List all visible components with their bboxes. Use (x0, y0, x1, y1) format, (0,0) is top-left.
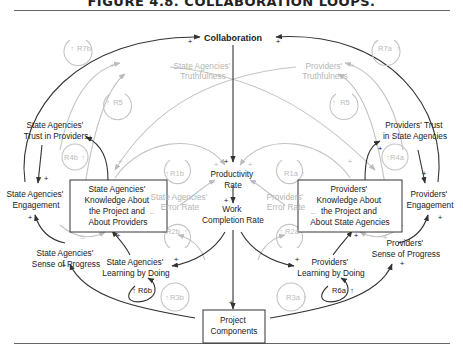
link-pr-learning-to-pr-knowledge (333, 231, 352, 255)
loop-label-r1b: R1b (170, 169, 184, 178)
loop-label-r3b: R3b (170, 293, 184, 302)
loop-label-r2a: R2a (285, 227, 300, 236)
sign-plus: + (224, 196, 229, 205)
sign-plus: + (62, 261, 67, 270)
sign-plus: + (248, 160, 253, 169)
sign-plus: + (378, 144, 383, 153)
link-sa-engagement-to-collaboration (24, 37, 200, 182)
sign-plus: + (118, 157, 123, 166)
sign-minus: – (251, 177, 256, 186)
sign-plus: + (400, 259, 405, 268)
loop-arrow-icon: ↑ (132, 286, 136, 295)
loop-label-r4b: R4b (64, 153, 78, 162)
loop-arrow-icon: ↑ (303, 293, 307, 302)
loop-arrow-icon: ↑ (81, 153, 85, 162)
sign-minus: – (81, 233, 86, 242)
node-sa-engagement: State Agencies' Engagement (6, 189, 65, 210)
sign-plus: + (438, 213, 443, 222)
sign-minus: – (211, 177, 216, 186)
sign-plus: + (44, 174, 49, 183)
sign-plus: + (354, 231, 359, 240)
link-sa-knowledge-to-sa-truth (85, 74, 125, 185)
link-sa-trust-to-sa-engagement (38, 145, 42, 183)
causal-loop-diagram: Collaboration State Agencies' Truthfulne… (0, 0, 463, 357)
loop-arrow-icon: ↑ (301, 169, 305, 178)
loop-label-r7a: R7a (378, 44, 393, 53)
node-sa-truthfulness: State Agencies' Truthfulness (173, 61, 232, 81)
loop-arrow-icon: ↑ (332, 98, 336, 107)
sign-plus: + (348, 157, 353, 166)
node-productivity-rate: Productivity Rate (210, 169, 255, 190)
sign-plus: + (88, 133, 93, 142)
loop-arrow-icon: ↑ (386, 153, 390, 162)
loop-arrow-icon: ↑ (70, 44, 74, 53)
sign-plus: + (340, 72, 345, 81)
loop-label-r4a: R4a (390, 153, 405, 162)
node-sa-trust: State Agencies' Trust in Providers (24, 120, 89, 141)
link-pr-knowledge-to-pr-truth (338, 74, 385, 185)
node-work-completion-rate: Work Completion Rate (202, 204, 264, 225)
link-work-completion-to-pr-learning (241, 232, 294, 266)
loop-label-r5-left: R5 (113, 98, 123, 107)
node-pr-engagement: Providers' Engagement (406, 189, 454, 210)
link-pr-trust-to-pr-engagement (418, 150, 425, 183)
link-pr-truth-to-sa-knowledge (115, 67, 296, 170)
node-sa-knowledge: State Agencies' Knowledge About the Proj… (85, 184, 152, 227)
sign-plus: + (224, 157, 229, 166)
loop-label-r6a: R6a (332, 286, 347, 295)
link-work-completion-to-sa-learning (172, 232, 225, 266)
sign-plus: + (229, 298, 234, 307)
sign-plus: + (295, 255, 300, 264)
sign-plus: + (188, 37, 193, 46)
loop-arrow-icon: ↑ (350, 286, 354, 295)
sign-plus: + (116, 231, 121, 240)
loop-label-r5-right: R5 (340, 98, 350, 107)
sign-minus: – (150, 208, 155, 217)
link-sa-progress-to-sa-engagement (35, 215, 65, 243)
loop-arrow-icon: ↑ (184, 227, 188, 236)
sign-plus: + (276, 37, 281, 46)
sign-plus: + (174, 255, 179, 264)
node-pr-learning-by-doing: Providers' Learning by Doing (297, 257, 365, 278)
sign-plus: + (214, 160, 219, 169)
node-pr-trust: Providers' Trust in State Agencies (383, 120, 447, 141)
loop-arrow-icon: ↑ (106, 98, 110, 107)
sign-plus: + (422, 169, 427, 178)
loop-label-r1a: R1a (284, 169, 299, 178)
node-collaboration: Collaboration (204, 33, 262, 43)
loop-arrow-icon: ↑ (279, 227, 283, 236)
sign-plus: + (350, 61, 355, 70)
sign-plus: + (28, 213, 33, 222)
loop-label-r7b: R7b (77, 44, 91, 53)
sign-minus: – (311, 208, 316, 217)
node-sa-learning-by-doing: State Agencies' Learning by Doing (102, 257, 170, 278)
loop-label-r6b: R6b (138, 286, 152, 295)
sign-plus: + (383, 233, 388, 242)
node-pr-error-rate: Providers' Error Rate (267, 192, 306, 212)
loop-arrow-icon: ↑ (165, 169, 169, 178)
loop-label-r2b: R2b (166, 227, 180, 236)
loop-arrow-icon: ↑ (165, 293, 169, 302)
sign-plus: + (110, 61, 115, 70)
sign-plus: + (120, 72, 125, 81)
loop-label-r3a: R3a (286, 293, 301, 302)
loop-arrow-icon: ↑ (396, 44, 400, 53)
link-sa-truth-to-pr-knowledge (170, 67, 375, 170)
